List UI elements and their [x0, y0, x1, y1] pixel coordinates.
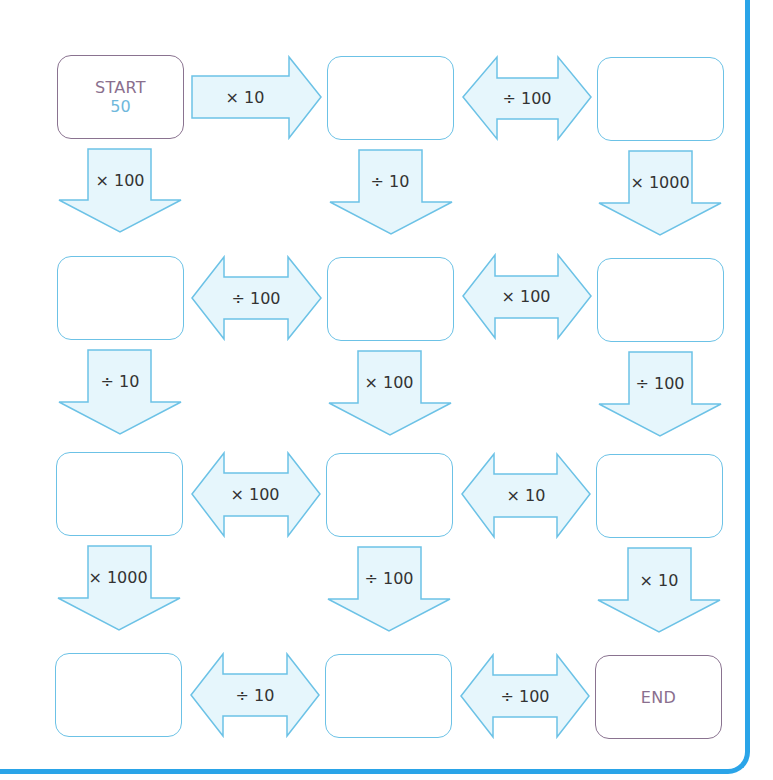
answer-box[interactable] — [57, 256, 184, 340]
down-arrow-icon — [328, 547, 450, 631]
operation-label: × 1000 — [630, 173, 689, 192]
end-label: END — [641, 688, 676, 707]
answer-box[interactable] — [56, 452, 183, 536]
operation-label: ÷ 10 — [236, 686, 275, 705]
end-box: END — [595, 655, 722, 739]
operation-label: ÷ 10 — [371, 172, 410, 191]
down-arrow-icon — [599, 352, 721, 436]
operation-label: ÷ 100 — [364, 569, 413, 588]
answer-box[interactable] — [597, 57, 724, 141]
down-arrow-icon — [59, 350, 181, 434]
operation-label: × 10 — [507, 486, 546, 505]
down-arrow-icon — [59, 149, 181, 232]
operation-label: ÷ 10 — [101, 372, 140, 391]
operation-label: × 100 — [364, 373, 413, 392]
operation-label: × 10 — [640, 571, 679, 590]
answer-box[interactable] — [327, 56, 454, 140]
operation-label: ÷ 100 — [500, 687, 549, 706]
start-label: START — [95, 78, 146, 97]
answer-box[interactable] — [55, 653, 182, 737]
down-arrow-icon — [330, 150, 452, 234]
operation-label: × 100 — [230, 485, 279, 504]
operation-label: ÷ 100 — [231, 289, 280, 308]
start-value: 50 — [110, 97, 130, 116]
answer-box[interactable] — [325, 654, 452, 738]
start-box: START 50 — [57, 55, 184, 139]
operation-label: × 10 — [226, 88, 265, 107]
operation-label: × 100 — [501, 287, 550, 306]
answer-box[interactable] — [327, 257, 454, 341]
answer-box[interactable] — [596, 454, 723, 538]
operation-label: ÷ 100 — [635, 374, 684, 393]
down-arrow-icon — [599, 151, 721, 235]
down-arrow-icon — [598, 548, 720, 632]
operation-label: × 1000 — [88, 568, 147, 587]
answer-box[interactable] — [597, 258, 724, 342]
operation-label: ÷ 100 — [502, 89, 551, 108]
down-arrow-icon — [329, 351, 451, 435]
operation-label: × 100 — [95, 171, 144, 190]
answer-box[interactable] — [326, 453, 453, 537]
down-arrow-icon — [58, 546, 180, 630]
